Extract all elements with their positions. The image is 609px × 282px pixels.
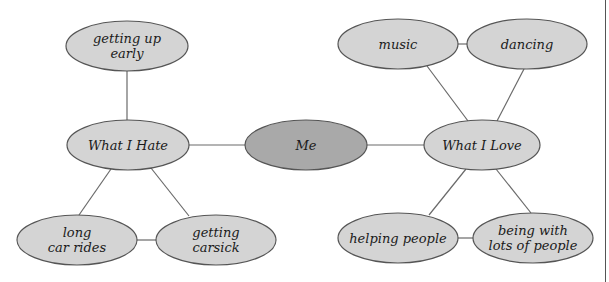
concept-map-diagram: MeWhat I Hategetting up earlylong car ri… [0,0,609,282]
node-dancing-label: dancing [467,19,587,69]
node-getting-up-early-label: getting up early [66,21,188,71]
node-what-i-hate-label: What I Hate [67,120,189,170]
node-long-car-rides-label: long car rides [17,215,137,265]
node-music-label: music [338,19,458,69]
node-getting-carsick-label: getting carsick [156,215,276,265]
node-what-i-love-label: What I Love [424,120,540,170]
node-helping-people-label: helping people [338,213,458,263]
page-border-line [605,0,606,282]
node-me-label: Me [245,120,367,170]
node-being-with-lots-of-people-label: being with lots of people [473,213,593,263]
